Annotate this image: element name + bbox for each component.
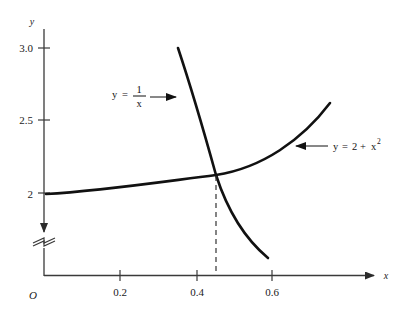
annotation-reciprocal-numerator: 1 [136,84,141,95]
y-tick-label-2.5: 2.5 [19,114,33,126]
x-tick-label-0.6: 0.6 [265,286,279,298]
annotation-reciprocal-denominator: x [136,98,142,109]
annotation-parabola-const: 2 [352,141,357,152]
chart-figure: 3.0 2.5 2 0.2 0.4 0.6 y x O y = 1 x y = … [0,0,404,318]
x-axis-label: x [383,270,389,281]
x-tick-label-0.4: 0.4 [190,286,204,298]
annotation-parabola-lhs: y [333,141,339,152]
figure-background [0,0,404,318]
annotation-parabola-equals: = [342,141,348,152]
y-axis-label: y [29,16,35,27]
chart-svg: 3.0 2.5 2 0.2 0.4 0.6 y x O y = 1 x y = … [0,0,404,318]
annotation-parabola-plus: + [360,141,366,152]
y-tick-label-3.0: 3.0 [19,42,33,54]
origin-label: O [29,289,37,301]
x-tick-label-0.2: 0.2 [113,286,127,298]
annotation-parabola-exponent: 2 [377,137,381,146]
annotation-reciprocal-equals: = [122,89,128,100]
y-tick-label-2: 2 [28,188,34,200]
annotation-reciprocal-lhs: y [112,89,118,100]
